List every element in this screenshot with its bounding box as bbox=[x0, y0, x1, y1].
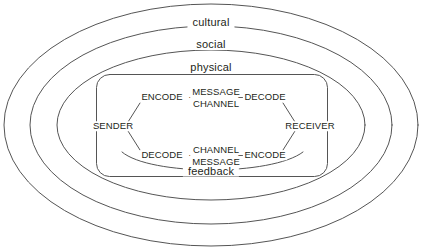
environment-label-physical: physical bbox=[185, 62, 236, 73]
sender-encode-connector bbox=[128, 103, 140, 122]
decode-receiver-connector bbox=[283, 103, 295, 122]
decode-label-top: DECODE bbox=[243, 92, 287, 102]
sender-decode-connector bbox=[128, 131, 140, 150]
encode-label-top: ENCODE bbox=[140, 92, 184, 102]
message-channel-stack-top: MESSAGE CHANNEL bbox=[190, 86, 242, 109]
message-label-top: MESSAGE bbox=[192, 86, 240, 98]
environment-label-cultural: cultural bbox=[187, 17, 234, 28]
encode-receiver-connector bbox=[283, 131, 295, 150]
receiver-label: RECEIVER bbox=[284, 121, 336, 131]
feedback-label: feedback bbox=[183, 166, 239, 177]
communication-model-diagram: cultural social physical SENDER RECEIVER… bbox=[0, 0, 423, 252]
social-environment-ellipse bbox=[30, 26, 392, 224]
encode-label-bottom: ENCODE bbox=[243, 150, 287, 160]
sender-label: SENDER bbox=[91, 121, 134, 131]
channel-label-bottom: CHANNEL bbox=[192, 144, 240, 156]
environment-label-social: social bbox=[191, 39, 230, 50]
channel-label-top: CHANNEL bbox=[192, 97, 240, 109]
decode-label-bottom: DECODE bbox=[140, 150, 184, 160]
channel-message-stack-bottom: CHANNEL MESSAGE bbox=[190, 144, 242, 167]
